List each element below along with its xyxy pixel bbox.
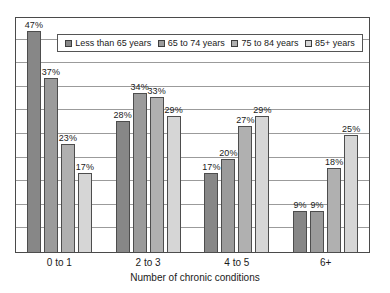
bar-group: 17%20%27%29% <box>204 17 269 253</box>
x-tick-label: 4 to 5 <box>224 257 249 269</box>
x-axis-tick-labels: 0 to 12 to 34 to 56+ <box>15 257 370 271</box>
bar-slot: 25% <box>344 17 358 253</box>
bar-value-label: 34% <box>131 82 149 92</box>
bar-value-label: 23% <box>59 133 77 143</box>
bar-slot: 20% <box>221 17 235 253</box>
bar[interactable] <box>116 121 130 253</box>
bar-value-label: 27% <box>236 115 254 125</box>
bar-slot: 37% <box>44 17 58 253</box>
bar[interactable] <box>167 116 181 253</box>
bar-slot: 29% <box>167 17 181 253</box>
bar-value-label: 17% <box>202 162 220 172</box>
legend-item[interactable]: Less than 65 years <box>65 38 151 48</box>
legend-label: 85+ years <box>315 38 355 48</box>
legend-item[interactable]: 65 to 74 years <box>158 38 225 48</box>
x-tick-label: 2 to 3 <box>136 257 161 269</box>
bar[interactable] <box>61 144 75 253</box>
legend-label: 75 to 84 years <box>241 38 298 48</box>
bar[interactable] <box>344 135 358 253</box>
x-tick-label: 6+ <box>320 257 331 269</box>
legend-label: 65 to 74 years <box>168 38 225 48</box>
bar-slot: 18% <box>327 17 341 253</box>
legend-swatch-icon <box>65 40 72 47</box>
x-axis-title: Number of chronic conditions <box>0 272 390 284</box>
bar-value-label: 33% <box>148 86 166 96</box>
chart-legend: Less than 65 years65 to 74 years75 to 84… <box>57 34 363 52</box>
bar-group: 9%9%18%25% <box>293 17 358 253</box>
bar[interactable] <box>255 116 269 253</box>
bar[interactable] <box>204 173 218 253</box>
bar-slot: 28% <box>116 17 130 253</box>
bar-slot: 17% <box>204 17 218 253</box>
bar-slot: 27% <box>238 17 252 253</box>
bar-slot: 9% <box>293 17 307 253</box>
legend-swatch-icon <box>231 40 238 47</box>
bar-value-label: 25% <box>342 124 360 134</box>
bar-value-label: 9% <box>294 200 307 210</box>
x-tick-label: 0 to 1 <box>47 257 72 269</box>
bar[interactable] <box>327 168 341 253</box>
legend-swatch-icon <box>305 40 312 47</box>
legend-label: Less than 65 years <box>75 38 151 48</box>
bar[interactable] <box>293 211 307 253</box>
bar-group: 28%34%33%29% <box>116 17 181 253</box>
bar-value-label: 18% <box>325 157 343 167</box>
legend-swatch-icon <box>158 40 165 47</box>
bar-group: 47%37%23%17% <box>27 17 92 253</box>
bar-value-label: 29% <box>253 105 271 115</box>
bar-slot: 47% <box>27 17 41 253</box>
bar[interactable] <box>310 211 324 253</box>
bar[interactable] <box>150 97 164 253</box>
bar-value-label: 47% <box>25 20 43 30</box>
bar[interactable] <box>133 93 147 253</box>
bar-value-label: 17% <box>76 162 94 172</box>
bar-slot: 9% <box>310 17 324 253</box>
bar-slot: 34% <box>133 17 147 253</box>
bar-slot: 29% <box>255 17 269 253</box>
bar-slot: 23% <box>61 17 75 253</box>
bar[interactable] <box>78 173 92 253</box>
bar[interactable] <box>221 159 235 253</box>
bars-layer: 47%37%23%17%28%34%33%29%17%20%27%29%9%9%… <box>15 17 370 253</box>
bar-chart: 47%37%23%17%28%34%33%29%17%20%27%29%9%9%… <box>0 0 390 293</box>
bar-value-label: 9% <box>311 200 324 210</box>
bar-slot: 33% <box>150 17 164 253</box>
bar[interactable] <box>44 78 58 253</box>
bar[interactable] <box>238 126 252 253</box>
bar-value-label: 37% <box>42 67 60 77</box>
bar-value-label: 29% <box>165 105 183 115</box>
bar[interactable] <box>27 31 41 253</box>
bar-value-label: 20% <box>219 148 237 158</box>
bar-slot: 17% <box>78 17 92 253</box>
legend-item[interactable]: 85+ years <box>305 38 355 48</box>
legend-item[interactable]: 75 to 84 years <box>231 38 298 48</box>
bar-value-label: 28% <box>114 110 132 120</box>
